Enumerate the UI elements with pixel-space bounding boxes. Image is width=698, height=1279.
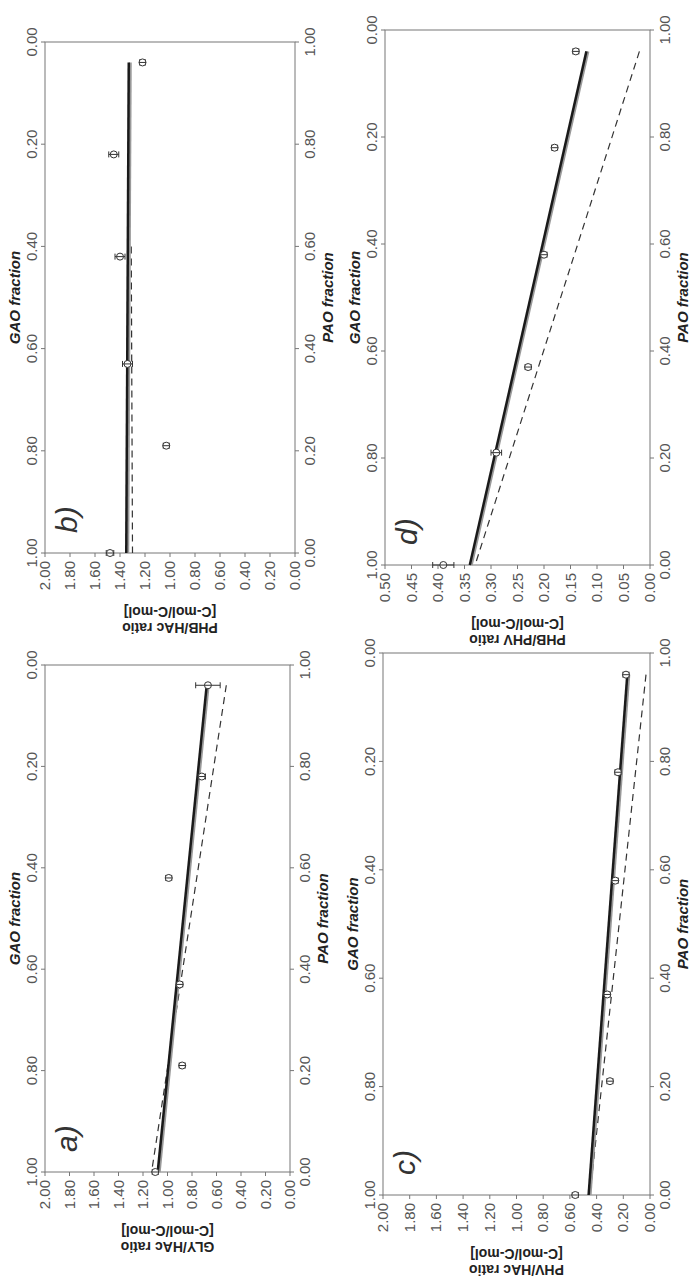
- fit-shadow-line: [471, 51, 588, 565]
- dashed-fit-line: [590, 675, 646, 1195]
- gao-tick-label: 0.00: [23, 650, 40, 679]
- pao-axis-title: PAO fraction: [314, 873, 331, 964]
- gao-tick-label: 0.80: [23, 436, 40, 465]
- plot-frame: [45, 42, 295, 553]
- data-point: [541, 251, 548, 258]
- pao-tick-label: 0.60: [301, 232, 318, 261]
- pao-axis-title: PAO fraction: [674, 879, 691, 970]
- pao-axis-title: PAO fraction: [674, 252, 691, 343]
- y-axis-units: [C-mol/C-mol]: [471, 616, 564, 632]
- pao-axis-title: PAO fraction: [319, 252, 336, 343]
- panel-d: 0.000.050.100.150.200.250.300.350.400.45…: [346, 15, 691, 648]
- y-tick-label: 1.80: [61, 1180, 78, 1209]
- gao-tick-label: 1.00: [363, 550, 380, 579]
- y-tick-label: 0.60: [211, 561, 228, 590]
- gao-tick-label: 0.20: [361, 747, 378, 776]
- y-tick-label: 0.40: [236, 561, 253, 590]
- gao-tick-label: 0.00: [363, 15, 380, 44]
- dashed-fit-line: [131, 246, 132, 553]
- solid-fit-line: [470, 51, 587, 565]
- y-axis-label: PHB/PHV ratio: [469, 632, 565, 648]
- y-tick-label: 0.80: [186, 561, 203, 590]
- data-point: [612, 877, 619, 884]
- y-tick-label: 1.40: [110, 1180, 127, 1209]
- pao-tick-label: 0.20: [301, 436, 318, 465]
- pao-tick-label: 1.00: [301, 27, 318, 56]
- y-tick-label: 1.40: [111, 561, 128, 590]
- pao-tick-label: 0.00: [656, 1180, 673, 1209]
- gao-tick-label: 1.00: [361, 1180, 378, 1209]
- gao-tick-label: 0.20: [23, 130, 40, 159]
- gao-tick-label: 0.60: [363, 336, 380, 365]
- gao-tick-label: 1.00: [23, 1157, 40, 1186]
- gao-tick-label: 0.20: [23, 752, 40, 781]
- data-point: [572, 48, 579, 55]
- y-tick-label: 0.05: [615, 573, 632, 602]
- gao-tick-label: 0.00: [23, 27, 40, 56]
- data-point: [525, 364, 532, 371]
- panel-c: 0.000.200.400.600.801.001.201.401.601.80…: [344, 638, 691, 1278]
- data-point: [179, 1062, 186, 1069]
- pao-tick-label: 0.00: [301, 538, 318, 567]
- panel-letter: b): [50, 506, 83, 533]
- data-point: [106, 550, 114, 557]
- y-tick-label: 0.25: [509, 573, 526, 602]
- gao-tick-label: 0.40: [23, 853, 40, 882]
- pao-tick-label: 0.40: [656, 964, 673, 993]
- pao-tick-label: 0.60: [296, 853, 313, 882]
- y-tick-label: 1.60: [427, 1203, 444, 1232]
- data-point: [622, 671, 629, 678]
- panel-b: 0.000.200.400.600.801.001.201.401.601.80…: [6, 27, 336, 636]
- y-tick-label: 0.35: [456, 573, 473, 602]
- y-tick-label: 1.80: [401, 1203, 418, 1232]
- y-tick-label: 1.00: [508, 1203, 525, 1232]
- y-tick-label: 0.40: [588, 1203, 605, 1232]
- gao-tick-label: 1.00: [23, 538, 40, 567]
- solid-fit-line: [158, 685, 207, 1172]
- panel-a: 0.000.200.400.600.801.001.201.401.601.80…: [6, 650, 331, 1255]
- y-tick-label: 1.60: [86, 561, 103, 590]
- dashed-fit-line: [475, 51, 639, 565]
- pao-tick-label: 0.80: [301, 130, 318, 159]
- data-point: [152, 1169, 159, 1176]
- data-point: [433, 562, 454, 569]
- y-tick-label: 0.40: [429, 573, 446, 602]
- data-point: [614, 769, 621, 776]
- plot-frame: [385, 30, 650, 565]
- pao-tick-label: 0.40: [296, 955, 313, 984]
- pao-tick-label: 1.00: [296, 650, 313, 679]
- gao-tick-label: 0.00: [361, 638, 378, 667]
- y-axis-units: [C-mol/C-mol]: [121, 1223, 214, 1239]
- pao-tick-label: 0.00: [296, 1157, 313, 1186]
- y-tick-label: 1.00: [161, 561, 178, 590]
- y-tick-label: 0.20: [614, 1203, 631, 1232]
- y-tick-label: 1.80: [61, 561, 78, 590]
- pao-tick-label: 0.20: [656, 1072, 673, 1101]
- gao-tick-label: 0.80: [361, 1072, 378, 1101]
- y-axis-units: [C-mol/C-mol]: [470, 1246, 563, 1262]
- panel-letter: d): [390, 518, 423, 545]
- panel-letter: c): [388, 1150, 421, 1175]
- y-tick-label: 0.80: [534, 1203, 551, 1232]
- data-point: [572, 1192, 579, 1199]
- y-tick-label: 0.60: [208, 1180, 225, 1209]
- fit-shadow-line: [159, 685, 208, 1172]
- y-tick-label: 1.60: [85, 1180, 102, 1209]
- data-point: [604, 991, 611, 998]
- y-tick-label: 0.30: [482, 573, 499, 602]
- data-point: [198, 773, 205, 780]
- pao-tick-label: 0.40: [656, 336, 673, 365]
- gao-tick-label: 0.40: [363, 229, 380, 258]
- y-tick-label: 0.20: [257, 1180, 274, 1209]
- data-point: [165, 874, 172, 881]
- pao-tick-label: 0.00: [656, 550, 673, 579]
- data-point: [123, 360, 133, 367]
- data-point: [196, 682, 221, 689]
- y-tick-label: 0.40: [232, 1180, 249, 1209]
- pao-tick-label: 1.00: [656, 638, 673, 667]
- dashed-fit-line: [152, 685, 227, 1172]
- data-point: [115, 253, 125, 260]
- y-tick-label: 0.45: [403, 573, 420, 602]
- gao-tick-label: 0.80: [23, 1056, 40, 1085]
- y-tick-label: 1.20: [481, 1203, 498, 1232]
